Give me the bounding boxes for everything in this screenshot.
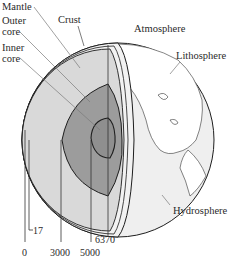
depth-tick-5000: 5000 bbox=[80, 247, 100, 258]
earth-structure-diagram: Mantle Outer core Inner core Crust Atmos… bbox=[0, 0, 228, 262]
label-crust: Crust bbox=[58, 14, 81, 25]
label-lithosphere: Lithosphere bbox=[176, 50, 226, 61]
label-hydrosphere: Hydrosphere bbox=[173, 205, 228, 216]
depth-tick-17: 17 bbox=[33, 225, 43, 236]
label-outer-core-2: core bbox=[2, 26, 20, 37]
label-mantle: Mantle bbox=[2, 1, 32, 12]
depth-tick-3000: 3000 bbox=[50, 247, 70, 258]
depth-tick-6370: 6370 bbox=[95, 234, 115, 245]
label-outer-core-1: Outer bbox=[2, 15, 26, 26]
label-atmosphere: Atmosphere bbox=[134, 23, 186, 34]
label-inner-core-1: Inner bbox=[2, 42, 25, 53]
depth-tick-0: 0 bbox=[22, 247, 27, 258]
label-inner-core-2: core bbox=[2, 53, 20, 64]
leader-crust bbox=[78, 26, 84, 46]
